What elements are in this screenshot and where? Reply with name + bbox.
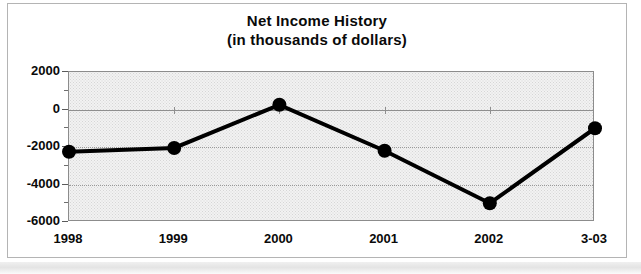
chart-title-block: Net Income History (in thousands of doll… [7, 11, 627, 49]
x-axis-label-3-03: 3-03 [549, 231, 639, 246]
y-axis-label--2000: -2000 [2, 139, 60, 152]
x-axis-label-1999: 1999 [128, 231, 218, 246]
data-point-2000 [272, 98, 286, 112]
x-axis-label-2001: 2001 [339, 231, 429, 246]
series-markers [62, 98, 602, 210]
chart-title: Net Income History [7, 11, 627, 30]
data-point-2002 [483, 196, 497, 210]
series-polyline [69, 105, 595, 203]
plot-area [68, 71, 594, 221]
page-shadow [0, 262, 641, 274]
x-axis-labels: 199819992000200120023-03 [68, 231, 594, 251]
y-axis-label--4000: -4000 [2, 177, 60, 190]
data-point-1999 [167, 141, 181, 155]
data-point-2001 [378, 144, 392, 158]
data-series-line [69, 72, 595, 222]
y-axis-label-0: 0 [2, 102, 60, 115]
x-axis-label-1998: 1998 [23, 231, 113, 246]
y-axis-label--6000: -6000 [2, 214, 60, 227]
data-point-1998 [62, 145, 76, 159]
chart-subtitle: (in thousands of dollars) [7, 30, 627, 49]
data-point-3-03 [588, 121, 602, 135]
y-tick-major--6000 [62, 221, 68, 222]
chart-figure: Net Income History (in thousands of doll… [0, 0, 641, 274]
x-axis-label-2002: 2002 [444, 231, 534, 246]
x-axis-label-2000: 2000 [233, 231, 323, 246]
y-axis-label-2000: 2000 [2, 64, 60, 77]
